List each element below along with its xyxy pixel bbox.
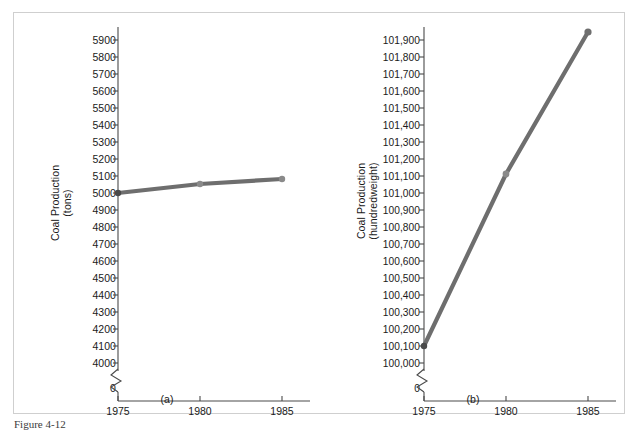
- data-point-marker: [279, 176, 285, 182]
- data-point-marker: [503, 171, 510, 178]
- y-axis-break-symbol-b: [417, 369, 427, 392]
- data-point-marker: [197, 181, 203, 187]
- y-axis-ticks-a: [113, 40, 118, 363]
- data-point-marker: [421, 343, 427, 349]
- x-tick-label-1985-b: 1985: [568, 405, 608, 417]
- panel-subcaption-b: (b): [320, 393, 626, 405]
- panel-subcaption-a: (a): [14, 393, 320, 405]
- chart-panel-b: Coal Production (hundredweight) 101,900 …: [320, 13, 626, 415]
- x-tick-label-1985-a: 1985: [262, 405, 302, 417]
- y-axis-ticks-b: [419, 40, 424, 363]
- data-point-marker: [115, 190, 121, 196]
- plot-area-b: [320, 13, 626, 415]
- chart-panel-a: Coal Production (tons) 5900 5800 5700 56…: [14, 13, 320, 415]
- data-line-b: [424, 32, 588, 346]
- figure-frame: Coal Production (tons) 5900 5800 5700 56…: [13, 12, 625, 414]
- y-axis-break-symbol-a: [111, 369, 121, 392]
- plot-area-a: [14, 13, 320, 415]
- x-tick-label-1975-a: 1975: [98, 405, 138, 417]
- data-point-marker: [584, 28, 591, 35]
- x-tick-label-1980-a: 1980: [180, 405, 220, 417]
- x-tick-label-1980-b: 1980: [486, 405, 526, 417]
- x-tick-label-1975-b: 1975: [404, 405, 444, 417]
- figure-caption: Figure 4-12: [14, 418, 66, 430]
